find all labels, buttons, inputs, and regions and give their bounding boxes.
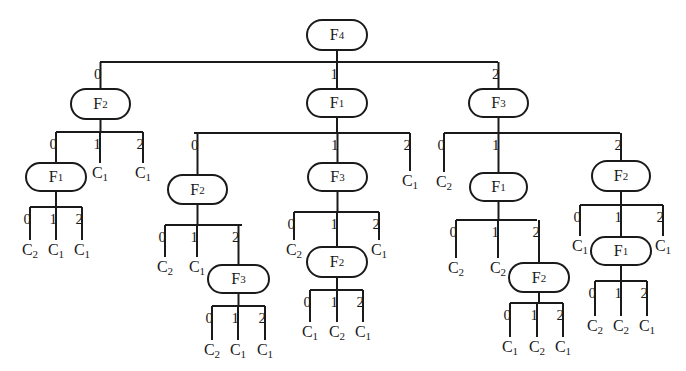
symbol-text: C [613, 317, 624, 334]
branch-label: 1 [331, 66, 339, 83]
leaf-class: C1 [639, 317, 655, 336]
symbol-subscript: 2 [447, 180, 453, 192]
decision-node: F4 [306, 19, 368, 51]
symbol-subscript: 1 [313, 330, 319, 342]
branch-label: 2 [137, 136, 145, 153]
leaf-class: C2 [490, 259, 506, 278]
symbol-subscript: 3 [500, 97, 506, 109]
branch-label: 0 [159, 229, 167, 246]
branch-label: 0 [450, 224, 458, 241]
leaf-class: C1 [230, 341, 246, 360]
branch-label: 0 [24, 211, 32, 228]
branch-label: 1 [615, 209, 623, 226]
branch-label: 0 [50, 136, 58, 153]
symbol-subscript: 4 [339, 29, 345, 41]
symbol-subscript: 1 [241, 348, 247, 360]
symbol-text: F [532, 269, 541, 287]
symbol-text: C [230, 341, 241, 358]
symbol-subscript: 1 [146, 171, 152, 183]
symbol-text: C [74, 241, 85, 258]
symbol-text: C [555, 338, 566, 355]
symbol-subscript: 1 [103, 171, 109, 183]
leaf-class: C1 [572, 237, 588, 256]
branch-label: 0 [304, 294, 312, 311]
branch-label: 1 [331, 294, 339, 311]
symbol-text: C [135, 164, 146, 181]
symbol-subscript: 1 [85, 248, 91, 260]
leaf-class: C1 [502, 338, 518, 357]
decision-tree-diagram: F40F20F10C21C12C11C12C11F10F20C21C12F30C… [0, 0, 686, 371]
symbol-text: F [330, 26, 339, 44]
leaf-class: C2 [204, 341, 220, 360]
symbol-text: C [529, 338, 540, 355]
branch-label: 1 [191, 229, 199, 246]
leaf-class: C1 [135, 164, 151, 183]
branch-label: 1 [531, 307, 539, 324]
symbol-subscript: 1 [513, 345, 519, 357]
leaf-class: C2 [329, 323, 345, 342]
symbol-subscript: 1 [200, 265, 206, 277]
leaf-class: C1 [555, 338, 571, 357]
branch-label: 2 [657, 209, 665, 226]
symbol-subscript: 2 [215, 348, 221, 360]
leaf-class: C1 [92, 164, 108, 183]
symbol-subscript: 1 [583, 244, 589, 256]
decision-node: F3 [207, 264, 270, 294]
decision-node: F2 [70, 88, 131, 120]
decision-node: F1 [25, 162, 87, 192]
symbol-subscript: 2 [339, 256, 345, 268]
decision-node: F3 [468, 88, 529, 118]
branch-label: 0 [94, 66, 102, 83]
symbol-text: C [286, 241, 297, 258]
symbol-text: C [448, 259, 459, 276]
branch-label: 1 [331, 137, 339, 154]
leaf-class: C2 [529, 338, 545, 357]
symbol-subscript: 1 [382, 248, 388, 260]
branch-label: 0 [288, 216, 296, 233]
branch-label: 0 [438, 137, 446, 154]
branch-label: 2 [641, 285, 649, 302]
symbol-text: C [157, 258, 168, 275]
branch-label: 2 [492, 66, 500, 83]
symbol-text: C [22, 241, 33, 258]
branch-label: 1 [232, 310, 240, 327]
branch-label: 1 [94, 136, 102, 153]
decision-node: F2 [306, 246, 368, 278]
symbol-subscript: 3 [339, 171, 345, 183]
symbol-text: F [491, 94, 500, 112]
symbol-subscript: 1 [500, 181, 506, 193]
symbol-subscript: 2 [199, 184, 205, 196]
symbol-text: F [231, 270, 240, 288]
symbol-subscript: 2 [340, 330, 346, 342]
branch-label: 0 [504, 307, 512, 324]
leaf-class: C1 [355, 323, 371, 342]
symbol-subscript: 2 [297, 248, 303, 260]
symbol-subscript: 2 [540, 345, 546, 357]
symbol-text: C [92, 164, 103, 181]
symbol-text: C [639, 317, 650, 334]
branch-label: 2 [533, 224, 541, 241]
symbol-text: C [371, 241, 382, 258]
leaf-class: C1 [371, 241, 387, 260]
branch-label: 2 [373, 216, 381, 233]
leaf-class: C1 [655, 237, 671, 256]
leaf-class: C2 [286, 241, 302, 260]
symbol-text: F [49, 168, 58, 186]
symbol-subscript: 1 [339, 97, 345, 109]
symbol-subscript: 3 [240, 273, 246, 285]
symbol-text: C [204, 341, 215, 358]
symbol-text: F [330, 94, 339, 112]
symbol-subscript: 2 [501, 266, 507, 278]
symbol-subscript: 2 [459, 266, 465, 278]
decision-node: F3 [307, 162, 368, 192]
leaf-class: C1 [257, 341, 273, 360]
symbol-subscript: 1 [366, 330, 372, 342]
symbol-subscript: 1 [413, 179, 419, 191]
symbol-text: F [614, 242, 623, 260]
symbol-text: F [93, 95, 102, 113]
leaf-class: C2 [157, 258, 173, 277]
symbol-subscript: 2 [598, 324, 604, 336]
symbol-subscript: 1 [59, 248, 65, 260]
symbol-text: C [329, 323, 340, 340]
symbol-text: C [257, 341, 268, 358]
